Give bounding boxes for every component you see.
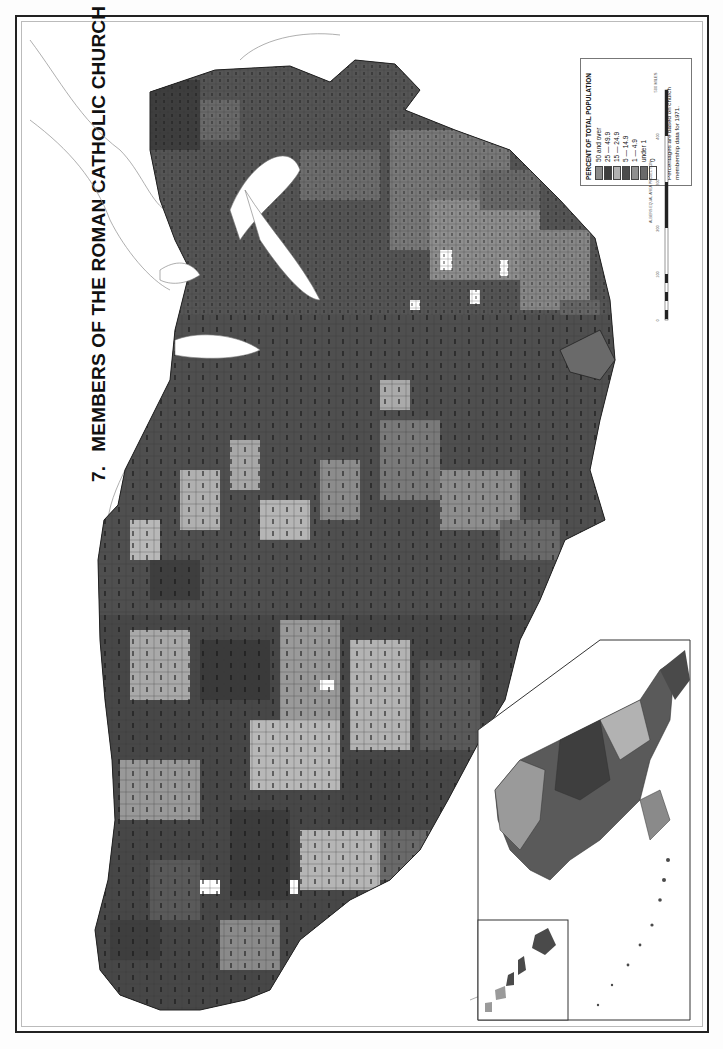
legend-label: 50 and over <box>595 128 602 162</box>
legend-swatch <box>631 166 639 180</box>
legend-label: 5 — 14.9 <box>622 136 629 162</box>
scale-tick-label: 500 MILES <box>653 73 658 93</box>
legend-label: 15 — 24.9 <box>613 132 620 162</box>
legend-item: 1 — 4.9 <box>630 64 639 180</box>
legend-swatch <box>622 166 630 180</box>
legend-title: PERCENT OF TOTAL POPULATION <box>585 64 592 180</box>
legend-item: under 1 <box>639 64 648 180</box>
scale-tick-label: 400 <box>655 133 660 140</box>
legend-label: 1 — 4.9 <box>631 139 638 162</box>
legend-label: 25 — 49.9 <box>604 132 611 162</box>
legend-swatch <box>595 166 603 180</box>
legend-item: 15 — 24.9 <box>612 64 621 180</box>
legend-swatch <box>613 166 621 180</box>
legend-swatch <box>640 166 648 180</box>
legend-swatch <box>604 166 612 180</box>
scale-tick-label: 100 <box>655 271 660 278</box>
scale-bar <box>655 70 685 330</box>
legend-item: 25 — 49.9 <box>603 64 612 180</box>
scale-tick-label: 0 <box>655 319 660 321</box>
hawaii-inset <box>478 920 568 1020</box>
scale-tick-label: 300 <box>655 179 660 186</box>
projection-label: ALBERS EQUAL AREA PROJECTION <box>649 161 653 223</box>
legend-item: 5 — 14.9 <box>621 64 630 180</box>
legend-item: 50 and over <box>594 64 603 180</box>
legend-label: under 1 <box>640 140 647 162</box>
scale-tick-label: 200 <box>655 225 660 232</box>
